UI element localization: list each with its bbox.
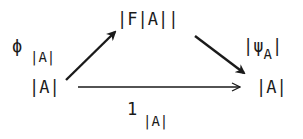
edge-psi-label: |ψA| (243, 38, 282, 55)
arrow-left-to-top (66, 32, 115, 80)
edge-psi-subscript: A (264, 46, 272, 62)
node-right-label: |A| (256, 79, 287, 96)
edge-psi-suffix: | (272, 36, 282, 56)
arrow-top-to-right (195, 36, 244, 73)
edge-phi-symbol: ϕ (12, 38, 22, 55)
edge-psi-prefix: | (243, 36, 253, 56)
edge-identity-symbol: 1 (127, 101, 137, 118)
edge-psi-symbol: ψ (253, 36, 263, 56)
node-left-label: |A| (29, 79, 60, 96)
edge-identity-subscript: |A| (143, 114, 168, 128)
node-top-label: |F|A|| (117, 11, 178, 28)
edge-phi-subscript: |A| (30, 50, 55, 64)
